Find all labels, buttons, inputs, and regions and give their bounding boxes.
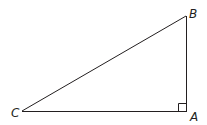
right-triangle-diagram: B A C <box>0 0 207 125</box>
edge-cb <box>22 16 186 111</box>
vertex-label-b: B <box>189 7 197 21</box>
right-angle-marker <box>179 104 187 112</box>
vertex-label-a: A <box>189 110 198 124</box>
vertex-label-c: C <box>11 106 20 120</box>
